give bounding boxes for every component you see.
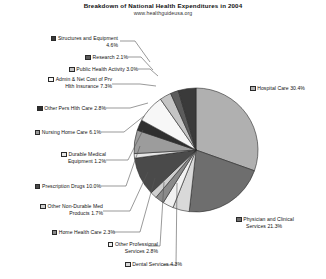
swatch-other-non-durable-products [40, 204, 46, 210]
leader-public-health [138, 69, 158, 76]
slice-label-other-non-durable-products: Other Non-Durable Med Products 1.7% [40, 203, 103, 217]
slice-label-home-health-care: Home Health Care 2.3% [52, 229, 115, 236]
swatch-physician-clinical-services [236, 217, 242, 223]
swatch-research [85, 55, 91, 61]
slice-label-structures-and-equipment: Structures and Equipment 4.6% [51, 35, 118, 49]
swatch-durable-medical-equipment [61, 152, 67, 158]
slice-label-public-health-activity: Public Health Activity 3.0% [69, 66, 138, 73]
pie-chart-figure: Breakdown of National Health Expenditure… [0, 0, 326, 279]
swatch-structures-and-equipment [51, 36, 57, 42]
swatch-prescription-drugs [35, 184, 41, 190]
slice-label-nursing-home-care: Nursing Home Care 6.1% [35, 129, 101, 136]
swatch-other-professional-services [108, 242, 114, 248]
swatch-dental-services [125, 262, 131, 268]
swatch-home-health-care [52, 230, 58, 236]
slice-label-admin-net-cost: Admin & Net Cost of Prv Hlth Insurance 7… [48, 76, 112, 90]
swatch-other-pers-hlth-care [37, 106, 43, 112]
slice-label-hospital-care: Hospital Care 30.4% [250, 85, 305, 92]
swatch-nursing-home-care [35, 130, 41, 136]
swatch-admin-net-cost [48, 77, 54, 83]
leader-other-pers [106, 103, 148, 108]
pie-slice-group [134, 88, 258, 212]
leader-admin [112, 84, 156, 86]
slice-label-durable-medical-equipment: Durable Medical Equipment 1.2% [61, 151, 106, 165]
slice-label-dental-services: Dental Services 4.3% [125, 261, 182, 268]
slice-label-other-professional-services: Other Professional Services 2.8% [108, 241, 158, 255]
slice-label-prescription-drugs: Prescription Drugs 10.0% [35, 183, 101, 190]
swatch-hospital-care [250, 86, 256, 92]
swatch-public-health-activity [69, 67, 75, 73]
slice-label-physician-clinical-services: Physician and Clinical Services 21.3% [236, 216, 294, 230]
pie-svg [0, 0, 326, 279]
slice-label-other-pers-hlth-care: Other Pers Hlth Care 2.8% [37, 105, 106, 112]
slice-label-research: Research 2.1% [85, 54, 128, 61]
